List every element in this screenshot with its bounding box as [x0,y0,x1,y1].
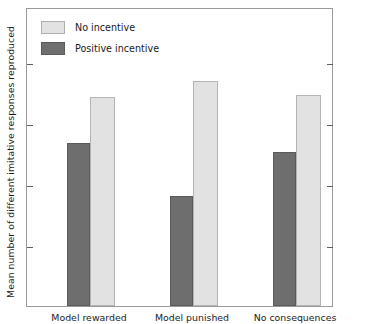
legend-swatch-no-incentive [41,21,65,34]
legend-item-no-incentive: No incentive [41,19,159,36]
y-axis-tick-right [327,64,333,65]
x-axis-label-0: Model rewarded [51,312,126,323]
x-axis-label-2: No consequences [254,312,337,323]
bar-no-incentive [193,81,218,306]
y-axis-tick-right [327,125,333,126]
y-axis-tick [27,247,33,248]
y-axis-tick [27,186,33,187]
bar-positive-incentive [273,152,296,306]
legend-label-positive-incentive: Positive incentive [75,43,159,54]
bar-no-incentive [296,95,321,306]
bar-chart: Mean number of different imitative respo… [0,0,372,324]
y-axis-tick [27,64,33,65]
y-axis-tick-right [327,186,333,187]
legend-item-positive-incentive: Positive incentive [41,40,159,57]
y-axis-title: Mean number of different imitative respo… [0,0,20,324]
chart-legend: No incentive Positive incentive [41,19,159,61]
bar-positive-incentive [67,143,90,306]
legend-swatch-positive-incentive [41,42,65,55]
bar-no-incentive [90,97,115,306]
y-axis-tick-right [327,247,333,248]
y-axis-tick [27,125,33,126]
x-axis-label-1: Model punished [155,312,229,323]
legend-label-no-incentive: No incentive [75,22,135,33]
bar-positive-incentive [170,196,193,306]
